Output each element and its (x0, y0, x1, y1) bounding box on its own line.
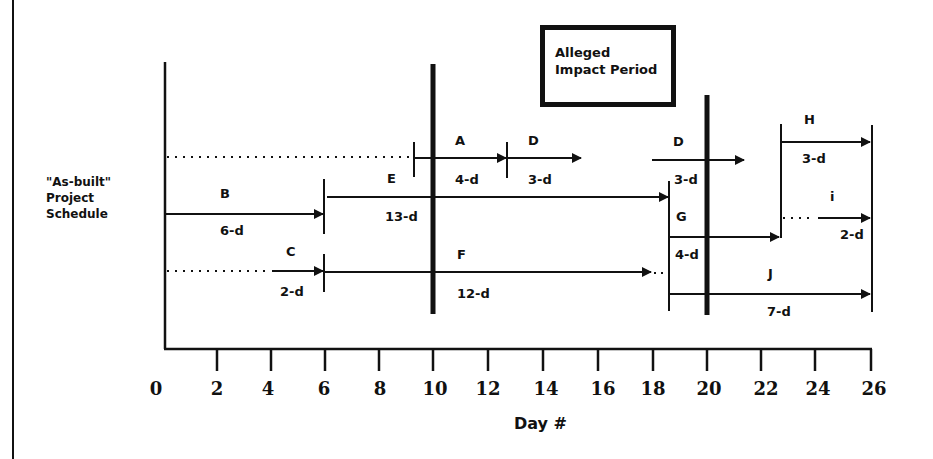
side-label-line-2: Project (46, 190, 111, 206)
label-i-duration: 2-d (840, 228, 864, 241)
tick-label-14: 14 (533, 380, 558, 398)
impact-period-box: Alleged Impact Period (540, 25, 676, 107)
impact-box-line-1: Alleged (555, 44, 657, 61)
label-d2-duration: 3-d (674, 173, 698, 186)
tick-label-24: 24 (805, 380, 830, 398)
label-d2: D (673, 135, 684, 148)
label-g-duration: 4-d (675, 248, 699, 261)
label-h: H (804, 113, 815, 126)
tick-label-20: 20 (696, 380, 721, 398)
label-b-duration: 6-d (220, 224, 244, 237)
label-f: F (457, 248, 466, 261)
tick-label-10: 10 (422, 380, 447, 398)
side-label-line-3: Schedule (46, 206, 111, 222)
label-c: C (286, 245, 296, 258)
side-label-line-1: "As-built" (46, 174, 111, 190)
tick-label-4: 4 (262, 380, 275, 398)
label-d1-duration: 3-d (528, 173, 552, 186)
tick-label-12: 12 (475, 380, 500, 398)
label-e: E (387, 172, 396, 185)
x-axis-title: Day # (514, 416, 567, 432)
tick-label-18: 18 (640, 380, 665, 398)
label-c-duration: 2-d (280, 285, 304, 298)
tick-label-6: 6 (318, 380, 331, 398)
label-b: B (220, 187, 230, 200)
label-j-duration: 7-d (767, 305, 791, 318)
impact-box-line-2: Impact Period (555, 61, 657, 78)
label-e-duration: 13-d (385, 210, 418, 223)
diagram-lines (0, 0, 933, 459)
label-i: i (830, 190, 834, 203)
schedule-side-label: "As-built" Project Schedule (46, 174, 111, 222)
label-j: J (768, 267, 773, 280)
tick-label-26: 26 (861, 380, 886, 398)
label-d1: D (528, 134, 539, 147)
label-h-duration: 3-d (802, 152, 826, 165)
tick-label-8: 8 (374, 380, 387, 398)
tick-label-16: 16 (590, 380, 615, 398)
label-f-duration: 12-d (457, 287, 490, 300)
tick-label-2: 2 (211, 380, 224, 398)
label-a-duration: 4-d (455, 173, 479, 186)
tick-label-22: 22 (753, 380, 778, 398)
label-g: G (676, 210, 687, 223)
label-a: A (455, 134, 465, 147)
x-axis-ticks (217, 349, 871, 371)
tick-label-0: 0 (150, 380, 163, 398)
schedule-diagram: "As-built" Project Schedule Alleged Impa… (0, 0, 933, 459)
